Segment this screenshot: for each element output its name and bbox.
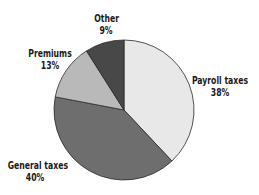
label-premiums-pct: 13%: [27, 60, 74, 72]
label-payroll-taxes: Payroll taxes 38%: [190, 75, 249, 99]
label-premiums: Premiums 13%: [27, 48, 74, 72]
label-payroll-pct: 38%: [190, 87, 249, 99]
label-general-pct: 40%: [8, 172, 63, 184]
label-general-taxes: General taxes 40%: [8, 160, 63, 184]
label-other-pct: 9%: [94, 25, 117, 37]
label-other: Other 9%: [94, 13, 117, 37]
